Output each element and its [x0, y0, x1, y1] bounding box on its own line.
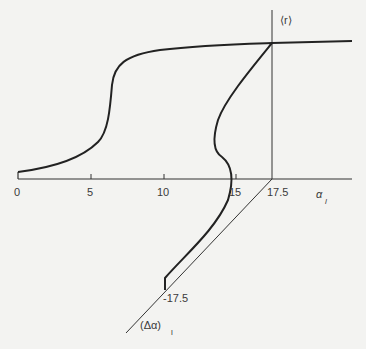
- tick-label-5: 5: [87, 186, 93, 198]
- tick-label-0: 0: [14, 186, 20, 198]
- delta-alpha-axis: [126, 179, 272, 333]
- tick-label-10: 10: [157, 186, 169, 198]
- alpha-axis-label: α: [316, 188, 323, 200]
- delta-axis-label: (Δα): [140, 319, 161, 331]
- alpha-curve: [18, 41, 352, 172]
- delta-alpha-curve: [165, 43, 272, 290]
- delta-axis-subscript: l: [171, 328, 173, 337]
- tick-label-17-5: 17.5: [267, 186, 288, 198]
- tick-label-neg-17-5: -17.5: [163, 292, 188, 304]
- tick-label-15: 15: [229, 186, 241, 198]
- alpha-axis-subscript: l: [325, 197, 327, 206]
- bifurcation-plot: ⟨r⟩ 0 5 10 15 17.5 α l -17.5 (Δα) l: [0, 0, 366, 349]
- r-axis-label: ⟨r⟩: [280, 14, 292, 26]
